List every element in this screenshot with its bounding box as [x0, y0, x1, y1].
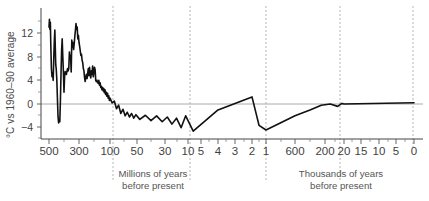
- x-tick-label-10k: 10: [373, 145, 386, 157]
- x-tick-label-20k: 20: [338, 145, 351, 157]
- left-axis-caption-line2: before present: [122, 180, 184, 191]
- x-tick-label-0: 0: [411, 145, 417, 157]
- x-tick-label-300: 300: [69, 145, 88, 157]
- chart-svg: 12 8 4 0 −4 °C vs 1960–90 average: [0, 0, 429, 201]
- x-tick-label-200k: 200: [315, 145, 334, 157]
- x-tick-label-30: 30: [159, 145, 172, 157]
- y-tick-label-8: 8: [27, 51, 33, 63]
- x-tick-label-600k: 600: [285, 145, 304, 157]
- y-tick-label-12: 12: [21, 27, 33, 39]
- x-tick-label-1m: 1: [263, 145, 269, 157]
- y-tick-label-4: 4: [27, 74, 33, 86]
- x-tick-label-15k: 15: [355, 145, 368, 157]
- y-axis-title: °C vs 1960–90 average: [5, 31, 16, 138]
- temperature-chart: 12 8 4 0 −4 °C vs 1960–90 average: [0, 0, 429, 201]
- x-tick-label-5k: 5: [393, 145, 399, 157]
- x-tick-label-4m: 4: [215, 145, 222, 157]
- x-tick-label-50: 50: [131, 145, 144, 157]
- right-axis-caption-line2: before present: [310, 180, 372, 191]
- y-tick-label-minus4: −4: [21, 121, 33, 133]
- x-tick-label-500: 500: [39, 145, 58, 157]
- y-tick-label-0: 0: [27, 98, 33, 110]
- right-axis-caption-line1: Thousands of years: [299, 168, 383, 179]
- x-tick-label-3m: 3: [232, 145, 238, 157]
- x-tick-label-2m: 2: [249, 145, 255, 157]
- x-tick-label-10m: 10: [182, 145, 195, 157]
- x-tick-label-100: 100: [100, 145, 119, 157]
- left-axis-caption-line1: Millions of years: [119, 168, 188, 179]
- x-tick-label-5m: 5: [198, 145, 204, 157]
